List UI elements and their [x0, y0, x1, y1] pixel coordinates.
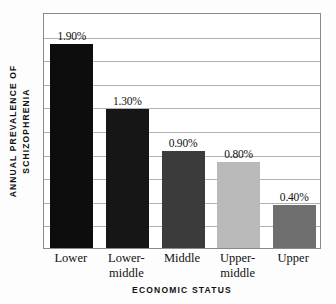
bar-chart-figure: ANNUAL PREVALENCE OF SCHIZOPHRENIA 1.90%…	[0, 0, 336, 304]
bar-group: 1.90%	[50, 12, 93, 248]
x-tick-label-line-1: Upper	[278, 251, 309, 265]
x-axis-title: ECONOMIC STATUS	[43, 285, 321, 295]
x-tick-label: Middle	[154, 251, 210, 266]
y-axis-title-line-2: SCHIZOPHRENIA	[20, 64, 33, 197]
x-tick-label: Upper-middle	[210, 251, 266, 280]
x-tick-label-line-1: Upper-	[220, 251, 255, 265]
x-tick-label-line-1: Lower	[54, 251, 87, 265]
bar-value-label: 1.30%	[113, 95, 142, 107]
plot-area: 1.90%1.30%0.90%0.80%0.40%	[43, 13, 321, 249]
x-tick-label-line-2: middle	[210, 266, 266, 281]
y-axis-title-line-1: ANNUAL PREVALENCE OF	[8, 64, 18, 197]
bars-layer: 1.90%1.30%0.90%0.80%0.40%	[44, 14, 320, 248]
bar	[106, 109, 149, 248]
bar	[162, 151, 205, 248]
x-tick-label-line-2: middle	[99, 266, 155, 281]
x-tick-label: Lower	[43, 251, 99, 266]
x-tick-label-line-1: Middle	[164, 251, 200, 265]
bar-group: 1.30%	[106, 12, 149, 248]
y-axis-title: ANNUAL PREVALENCE OF SCHIZOPHRENIA	[0, 13, 40, 248]
bar-value-label: 0.90%	[169, 137, 198, 149]
bar-group: 0.80%	[217, 12, 260, 248]
bar-value-label: 1.90%	[57, 30, 86, 42]
x-tick-label-line-1: Lower-	[108, 251, 145, 265]
x-tick-label: Lower-middle	[99, 251, 155, 280]
bar	[217, 162, 260, 248]
bar	[273, 205, 316, 248]
x-tick-label: Upper	[265, 251, 321, 266]
x-axis-tick-labels: LowerLower-middleMiddleUpper-middleUpper	[43, 251, 321, 285]
bar-value-label: 0.40%	[280, 191, 309, 203]
bar-group: 0.40%	[273, 12, 316, 248]
bar	[50, 44, 93, 248]
bar-value-label: 0.80%	[224, 148, 253, 160]
bar-group: 0.90%	[162, 12, 205, 248]
